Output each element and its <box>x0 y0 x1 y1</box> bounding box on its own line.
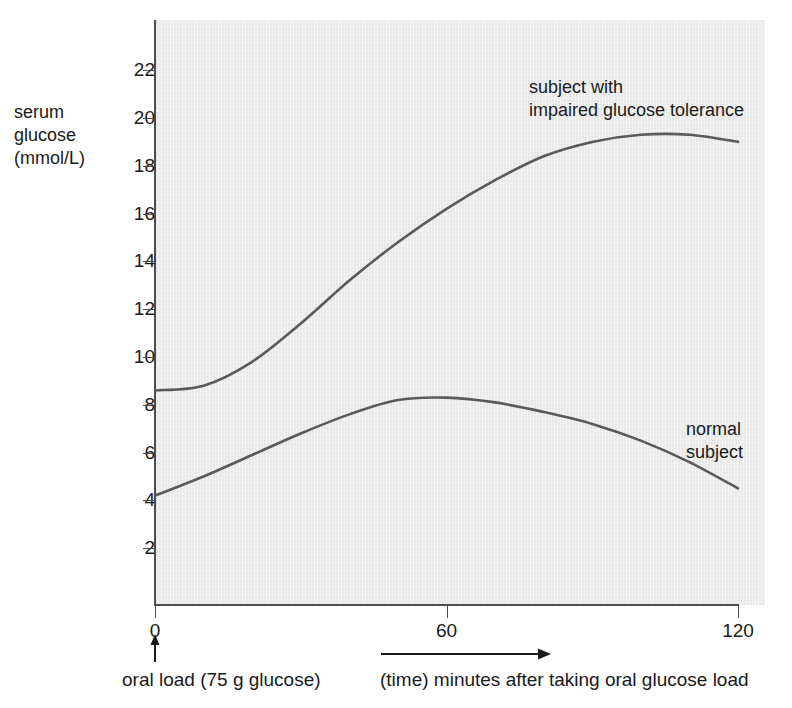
y-axis-title: serum glucose (mmol/L) <box>14 101 85 170</box>
annotation-normal-subject: normal subject <box>686 418 743 464</box>
glucose-tolerance-chart: serum glucose (mmol/L) 24681012141618202… <box>0 0 792 708</box>
y-tick-14: 14 <box>0 261 155 262</box>
y-tick-8: 8 <box>0 405 155 406</box>
y-tick-mark-16 <box>143 214 155 215</box>
x-tick-label-0: 0 <box>125 620 185 641</box>
y-tick-mark-10 <box>143 357 155 358</box>
x-tick-label-120: 120 <box>708 620 768 641</box>
y-tick-mark-4 <box>143 500 155 501</box>
y-tick-mark-14 <box>143 261 155 262</box>
x-tick-mark-120 <box>738 605 739 618</box>
caption-time-axis: (time) minutes after taking oral glucose… <box>380 669 749 691</box>
y-tick-mark-20 <box>143 118 155 119</box>
annotation-impaired-glucose-tolerance: subject with impaired glucose tolerance <box>529 76 744 122</box>
x-tick-mark-60 <box>447 605 448 618</box>
y-tick-12: 12 <box>0 309 155 310</box>
y-tick-18: 18 <box>0 166 155 167</box>
y-tick-mark-12 <box>143 309 155 310</box>
y-tick-6: 6 <box>0 453 155 454</box>
x-tick-mark-0 <box>155 605 156 618</box>
y-tick-mark-6 <box>143 453 155 454</box>
y-tick-4: 4 <box>0 500 155 501</box>
y-tick-mark-2 <box>143 548 155 549</box>
y-tick-mark-8 <box>143 405 155 406</box>
caption-oral-load: oral load (75 g glucose) <box>122 669 321 691</box>
y-tick-2: 2 <box>0 548 155 549</box>
time-right-arrow-icon <box>381 649 551 660</box>
y-tick-mark-18 <box>143 166 155 167</box>
y-tick-22: 22 <box>0 70 155 71</box>
x-tick-label-60: 60 <box>417 620 477 641</box>
y-tick-20: 20 <box>0 118 155 119</box>
y-tick-10: 10 <box>0 357 155 358</box>
y-tick-mark-22 <box>143 70 155 71</box>
y-tick-16: 16 <box>0 214 155 215</box>
